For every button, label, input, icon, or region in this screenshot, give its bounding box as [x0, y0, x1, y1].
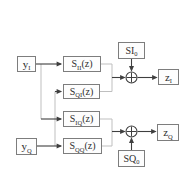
input-yq-label: yQ: [21, 141, 31, 152]
filter-sii-label: SII(z): [71, 59, 92, 69]
input-yi-label: yI: [23, 59, 31, 70]
input-yi-box: yI: [17, 56, 36, 72]
filter-sii-box: SII(z): [63, 56, 101, 72]
offset-si0-box: SI0: [118, 42, 145, 59]
merge-wires: [41, 64, 112, 146]
output-zq-box: zQ: [157, 124, 179, 141]
diagram-canvas: yI yQ SII(z) SQI(z) SIQ(z) SQQ(z) SI0 SQ…: [0, 0, 195, 192]
output-zi-box: zI: [158, 69, 179, 85]
offset-si0-label: SI0: [125, 46, 137, 56]
offset-sq0-box: SQ0: [118, 150, 145, 167]
adder-q-node: [126, 126, 137, 137]
filter-sqi-label: SQI(z): [70, 87, 94, 97]
output-zq-label: zQ: [163, 127, 173, 138]
filter-sqq-label: SQQ(z): [69, 141, 95, 151]
adder-i-node: [126, 72, 137, 83]
input-yq-box: yQ: [16, 138, 37, 155]
signal-arrows: [36, 59, 157, 150]
merge-sii-sqi-wire: [100, 64, 112, 92]
output-zi-label: zI: [165, 72, 172, 83]
filter-siq-label: SIQ(z): [70, 114, 94, 124]
filter-sqi-box: SQI(z): [63, 84, 100, 99]
offset-sq0-label: SQ0: [123, 154, 139, 164]
filter-sqq-box: SQQ(z): [63, 138, 102, 154]
filter-siq-box: SIQ(z): [63, 111, 100, 127]
